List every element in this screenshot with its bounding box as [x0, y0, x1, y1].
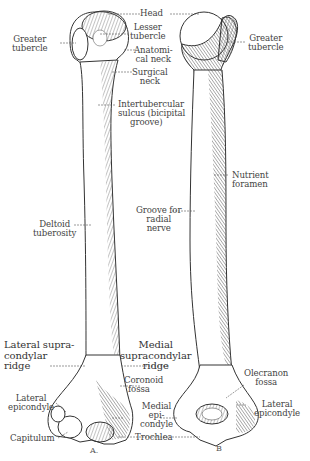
- label-line: foramen: [232, 180, 269, 189]
- humerus-figure: Head Greater tubercle Lesser tubercle An…: [0, 0, 310, 461]
- view-label-b: B: [216, 444, 222, 453]
- label-line: epicondyle: [8, 403, 54, 412]
- label-lateral-supracondylar-ridge: Lateral supra- condylar ridge: [4, 340, 74, 372]
- label-greater-tubercle-b: Greater tubercle: [248, 34, 284, 52]
- label-lesser-tubercle: Lesser tubercle: [130, 23, 166, 41]
- label-line: Lateral supra-: [4, 340, 74, 351]
- label-line: fossa: [244, 378, 288, 387]
- label-groove-radial-nerve: Groove for radial nerve: [136, 206, 181, 233]
- label-trochlea: Trochlea: [135, 433, 173, 442]
- label-line: tubercle: [130, 32, 166, 41]
- label-line: tubercle: [248, 43, 284, 52]
- label-line: tuberosity: [33, 229, 76, 238]
- label-deltoid-tuberosity: Deltoid tuberosity: [33, 220, 76, 238]
- label-line: Medial: [120, 340, 191, 351]
- label-line: epicondyle: [254, 409, 300, 418]
- label-nutrient-foramen: Nutrient foramen: [232, 171, 269, 189]
- label-line: condyle: [140, 420, 173, 429]
- label-line: ridge: [4, 361, 74, 372]
- label-lateral-epicondyle-a: Lateral epicondyle: [8, 394, 54, 412]
- label-lateral-epicondyle-b: Lateral epicondyle: [254, 400, 300, 418]
- label-surgical-neck: Surgical neck: [132, 68, 168, 86]
- label-medial-epicondyle: Medial epi- condyle: [140, 402, 173, 429]
- label-intertubercular-sulcus: Intertubercular sulcus (bicipital groove…: [118, 100, 185, 127]
- label-capitulum: Capitulum: [10, 434, 54, 443]
- label-greater-tubercle-a: Greater tubercle: [12, 35, 48, 53]
- label-anatomical-neck: Anatomi- cal neck: [134, 46, 173, 64]
- label-line: groove): [118, 118, 185, 127]
- label-medial-supracondylar-ridge: Medial supracondylar ridge: [120, 340, 191, 372]
- label-line: tubercle: [12, 44, 48, 53]
- label-line: nerve: [136, 224, 181, 233]
- label-line: ridge: [120, 361, 191, 372]
- label-head: Head: [140, 9, 163, 18]
- label-line: cal neck: [134, 55, 173, 64]
- label-line: neck: [132, 77, 168, 86]
- label-coronoid-fossa: Coronoid fossa: [124, 376, 163, 394]
- label-line: fossa: [124, 385, 163, 394]
- view-label-a: A.: [90, 446, 98, 455]
- label-olecranon-fossa: Olecranon fossa: [244, 369, 288, 387]
